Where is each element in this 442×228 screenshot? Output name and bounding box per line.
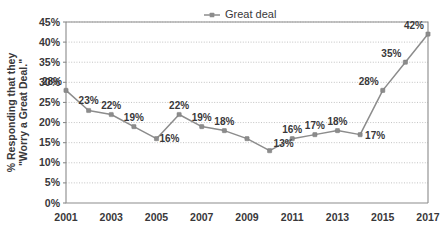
y-tick-label-15: 15%: [39, 136, 61, 148]
y-tick-label-5: 5%: [45, 176, 61, 188]
data-point-2008: [222, 129, 226, 133]
x-axis-tick-labels: 200120032005200720092011201320152017: [54, 211, 440, 223]
data-label-2005: 16%: [159, 133, 179, 144]
y-tick-label-25: 25%: [39, 96, 61, 108]
line-chart: 0%5%10%15%20%25%30%35%40%45% 20012003200…: [0, 0, 442, 228]
data-point-2013: [335, 129, 339, 133]
data-point-2001: [64, 88, 68, 92]
x-tick-label-2001: 2001: [54, 211, 78, 223]
legend-label-great-deal[interactable]: Great deal: [225, 8, 276, 20]
x-tick-label-2013: 2013: [326, 211, 350, 223]
data-label-2001: 28%: [42, 76, 62, 87]
x-tick-label-2003: 2003: [100, 211, 124, 223]
legend-marker-swatch: [210, 13, 215, 18]
y-axis-title-line1: % Responding that they: [5, 53, 17, 173]
data-label-2002: 23%: [79, 95, 99, 106]
data-label-2014: 17%: [365, 130, 385, 141]
data-label-2013: 18%: [327, 116, 347, 127]
data-point-2012: [313, 133, 317, 137]
data-point-2009: [245, 137, 249, 141]
y-axis-title-line2: "Worry a Great Deal.": [17, 59, 29, 166]
x-tick-label-2009: 2009: [235, 211, 259, 223]
data-label-2003: 22%: [101, 100, 121, 111]
data-label-2004: 19%: [124, 112, 144, 123]
y-tick-label-0: 0%: [45, 197, 61, 209]
data-point-2007: [200, 124, 204, 128]
x-tick-label-2015: 2015: [371, 211, 395, 223]
x-tick-label-2017: 2017: [416, 211, 440, 223]
data-label-2006: 22%: [169, 100, 189, 111]
data-label-2016: 35%: [381, 48, 401, 59]
data-label-2012: 17%: [305, 120, 325, 131]
data-label-2010: 13%: [274, 138, 294, 149]
data-label-2017: 42%: [404, 20, 424, 31]
data-label-2011: 16%: [282, 124, 302, 135]
y-tick-label-35: 35%: [39, 56, 61, 68]
data-point-2003: [109, 112, 113, 116]
x-tick-label-2007: 2007: [190, 211, 214, 223]
x-tick-label-2005: 2005: [145, 211, 169, 223]
x-tick-label-2011: 2011: [281, 211, 304, 223]
data-label-2008: 18%: [214, 116, 234, 127]
y-tick-label-10: 10%: [39, 156, 61, 168]
data-point-2017: [426, 32, 430, 36]
data-point-2015: [381, 88, 385, 92]
data-label-2007: 19%: [192, 112, 212, 123]
data-point-2005: [154, 137, 158, 141]
data-point-2014: [358, 133, 362, 137]
data-point-2002: [87, 108, 91, 112]
y-tick-label-45: 45%: [39, 16, 61, 28]
chart-container: 0%5%10%15%20%25%30%35%40%45% 20012003200…: [0, 0, 442, 228]
y-tick-label-40: 40%: [39, 36, 61, 48]
data-label-2015: 28%: [359, 76, 379, 87]
y-axis-title: % Responding that they"Worry a Great Dea…: [5, 53, 29, 173]
data-point-2004: [132, 124, 136, 128]
y-axis-title-group: % Responding that they"Worry a Great Dea…: [5, 53, 29, 173]
data-point-2010: [268, 149, 272, 153]
y-tick-label-20: 20%: [39, 116, 61, 128]
data-point-2016: [403, 60, 407, 64]
data-point-2006: [177, 112, 181, 116]
